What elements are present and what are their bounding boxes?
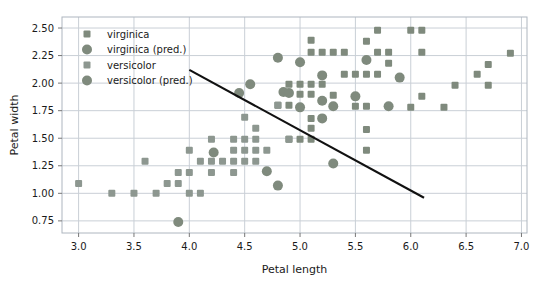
data-point	[395, 73, 405, 83]
data-point	[330, 92, 337, 99]
data-point	[241, 147, 248, 154]
data-point	[241, 114, 248, 121]
data-point	[252, 147, 259, 154]
data-point	[374, 27, 381, 34]
data-point	[186, 147, 193, 154]
x-tick-label: 3.0	[71, 241, 87, 252]
data-point	[208, 136, 215, 143]
data-point	[407, 27, 414, 34]
data-point	[252, 158, 259, 165]
data-point	[328, 101, 338, 111]
scatter-plot: 3.03.54.04.55.05.56.06.57.00.751.001.251…	[0, 0, 547, 287]
data-point	[350, 91, 360, 101]
legend-marker-circle	[82, 76, 92, 86]
x-tick-label: 4.5	[237, 241, 253, 252]
data-point	[418, 27, 425, 34]
data-point	[297, 91, 304, 98]
data-point	[284, 88, 294, 98]
data-point	[407, 104, 414, 111]
legend-label: versicolor (pred.)	[107, 75, 193, 86]
data-point	[317, 96, 327, 106]
y-tick-label: 1.25	[32, 160, 54, 171]
data-point	[485, 82, 492, 89]
data-point	[245, 79, 255, 89]
data-point	[252, 125, 259, 132]
data-point	[507, 50, 514, 57]
data-point	[363, 38, 370, 45]
data-point	[361, 55, 371, 65]
y-tick-label: 1.50	[32, 133, 54, 144]
data-point	[75, 180, 82, 187]
data-point	[273, 181, 283, 191]
data-point	[363, 71, 370, 78]
data-point	[285, 81, 292, 88]
data-point	[363, 147, 370, 154]
data-point	[262, 166, 272, 176]
data-point	[319, 49, 326, 56]
legend-label: versicolor	[107, 60, 157, 71]
data-point	[209, 148, 219, 158]
data-point	[285, 102, 292, 109]
data-point	[230, 169, 237, 176]
data-point	[285, 136, 292, 143]
data-point	[308, 37, 315, 44]
data-point	[252, 136, 259, 143]
data-point	[352, 103, 359, 110]
x-tick-label: 6.5	[458, 241, 474, 252]
data-point	[452, 82, 459, 89]
x-tick-label: 5.0	[292, 241, 308, 252]
data-point	[341, 71, 348, 78]
data-point	[108, 190, 115, 197]
data-point	[175, 180, 182, 187]
data-point	[374, 49, 381, 56]
data-point	[330, 49, 337, 56]
data-point	[295, 102, 305, 112]
data-point	[241, 158, 248, 165]
data-point	[186, 190, 193, 197]
x-tick-label: 6.0	[403, 241, 419, 252]
data-point	[328, 159, 338, 169]
x-tick-label: 4.0	[181, 241, 197, 252]
y-tick-label: 1.00	[32, 188, 54, 199]
legend-label: virginica	[107, 29, 150, 40]
data-point	[474, 71, 481, 78]
data-point	[363, 126, 370, 133]
data-point	[164, 180, 171, 187]
legend-marker-circle	[82, 45, 92, 55]
data-point	[440, 104, 447, 111]
data-point	[485, 61, 492, 68]
y-axis-title: Petal width	[8, 95, 21, 156]
data-point	[263, 147, 270, 154]
data-point	[385, 49, 392, 56]
data-point	[308, 81, 315, 88]
legend-label: virginica (pred.)	[107, 44, 186, 55]
data-point	[418, 49, 425, 56]
legend-marker-square	[84, 62, 91, 69]
data-point	[274, 102, 281, 109]
y-tick-label: 2.00	[32, 78, 54, 89]
data-point	[230, 136, 237, 143]
data-point	[197, 190, 204, 197]
data-point	[273, 53, 283, 63]
y-tick-label: 1.75	[32, 105, 54, 116]
data-point	[374, 71, 381, 78]
data-point	[241, 136, 248, 143]
y-tick-label: 2.50	[32, 23, 54, 34]
data-point	[308, 125, 315, 132]
data-point	[384, 101, 394, 111]
y-tick-label: 0.75	[32, 215, 54, 226]
y-tick-label: 2.25	[32, 50, 54, 61]
data-point	[175, 169, 182, 176]
data-point	[208, 169, 215, 176]
data-point	[308, 115, 315, 122]
data-point	[186, 169, 193, 176]
data-point	[142, 158, 149, 165]
data-point	[153, 190, 160, 197]
legend-marker-square	[84, 31, 91, 38]
x-axis-title: Petal length	[262, 263, 328, 276]
data-point	[297, 81, 304, 88]
data-point	[230, 147, 237, 154]
data-point	[219, 158, 226, 165]
data-point	[208, 158, 215, 165]
x-tick-label: 3.5	[126, 241, 142, 252]
